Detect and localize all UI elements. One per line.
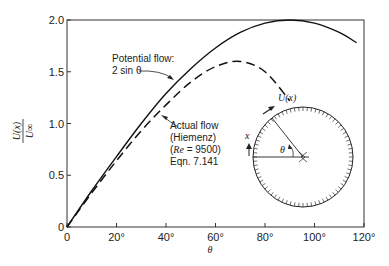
x-axis-label: θ: [208, 244, 213, 255]
cylinder-inset: θ x U(x): [244, 92, 353, 207]
potential-flow-annotation: Potential flow: 2 sin θ: [112, 53, 174, 80]
svg-text:(Hiemenz): (Hiemenz): [170, 132, 216, 143]
svg-text:2 sin θ: 2 sin θ: [112, 65, 142, 76]
chart: 00.51.01.52.0 020°40°60°80°100°120° U(x)…: [0, 0, 389, 266]
y-axis-ticks: 00.51.01.52.0: [49, 14, 71, 233]
x-tick-label: 60°: [207, 231, 224, 243]
svg-text:(Re = 9500): (Re = 9500): [170, 144, 221, 155]
x-tick-label: 120°: [353, 231, 376, 243]
y-axis-label: U(x) U∞: [11, 119, 35, 143]
y-tick-label: 0.5: [49, 169, 64, 181]
y-tick-label: 1.0: [49, 118, 64, 130]
x-tick-label: 0: [64, 231, 70, 243]
svg-text:Actual flow: Actual flow: [170, 120, 219, 131]
x-axis-ticks: 020°40°60°80°100°120°: [64, 223, 375, 243]
y-tick-label: 1.5: [49, 66, 64, 78]
svg-text:Potential flow:: Potential flow:: [112, 53, 174, 64]
svg-text:U∞: U∞: [24, 124, 35, 138]
y-tick-label: 2.0: [49, 14, 64, 26]
x-tick-label: 40°: [158, 231, 175, 243]
x-tick-label: 80°: [257, 231, 274, 243]
actual-flow-annotation: Actual flow (Hiemenz) (Re = 9500) Eqn. 7…: [161, 115, 221, 167]
x-tick-label: 20°: [108, 231, 125, 243]
svg-text:U(x): U(x): [278, 92, 297, 104]
svg-text:x: x: [244, 130, 250, 141]
svg-text:U(x): U(x): [11, 121, 23, 140]
x-tick-label: 100°: [303, 231, 326, 243]
svg-text:Eqn. 7.141: Eqn. 7.141: [170, 156, 219, 167]
svg-text:θ: θ: [280, 144, 285, 155]
